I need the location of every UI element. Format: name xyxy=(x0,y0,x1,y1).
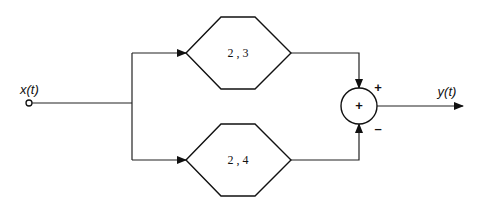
block-top: 2 , 3 xyxy=(186,17,291,89)
summer-plus-symbol: + xyxy=(355,98,363,113)
summing-junction: + + – xyxy=(341,80,382,136)
sign-top: + xyxy=(374,80,382,95)
block-diagram: x(t) 2 , 3 2 , 4 + + – y(t) xyxy=(0,0,485,213)
block-bottom-label: 2 , 4 xyxy=(228,153,249,167)
bottom-to-summer-wire xyxy=(291,124,359,160)
sign-bottom: – xyxy=(374,121,381,136)
output-label: y(t) xyxy=(437,84,457,99)
top-to-summer-wire xyxy=(291,53,359,88)
input-terminal-icon xyxy=(26,100,32,106)
input-label: x(t) xyxy=(19,82,39,97)
block-bottom: 2 , 4 xyxy=(186,124,291,196)
block-top-label: 2 , 3 xyxy=(228,46,249,60)
